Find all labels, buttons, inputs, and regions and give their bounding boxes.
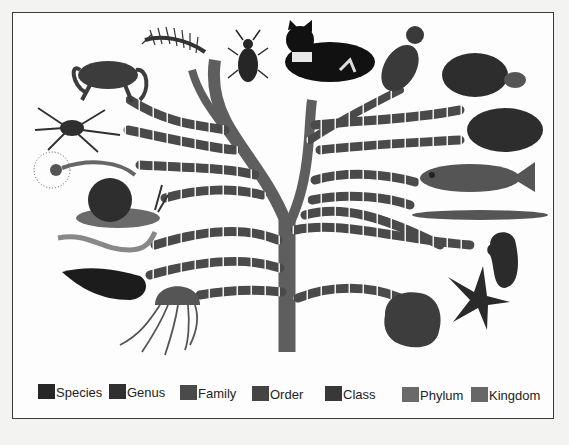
spider-illustration [35,108,120,152]
leech-illustration [62,268,146,300]
beetle-illustration [228,30,268,82]
legend-label: Phylum [420,389,463,402]
centipede-illustration [142,27,205,53]
legend-item-phylum: Phylum [402,387,463,402]
legend-item-kingdom: Kingdom [471,387,540,402]
legend-label: Class [343,388,376,401]
legend-item-genus: Genus [109,384,165,399]
sea-squirt-illustration [487,232,518,288]
legend-item-family: Family [180,385,236,400]
legend-item-class: Class [325,386,376,401]
legend-swatch [471,387,488,402]
bristle-worm-illustration [58,232,155,250]
left-branches [128,100,282,295]
legend-swatch [109,384,126,399]
legend-label: Order [270,388,303,401]
taxonomy-tree [0,0,569,445]
right-branches [295,90,470,298]
legend-swatch [325,386,342,401]
bird-illustration [374,26,427,98]
tree-trunk [192,60,312,352]
legend-label: Species [56,386,102,399]
legend-swatch [180,385,197,400]
crab-illustration [74,61,147,102]
fish-illustration [420,162,535,192]
legend-swatch [402,387,419,402]
legend-swatch [252,386,269,401]
tortoise-illustration [442,53,526,97]
cat-illustration [285,20,375,82]
legend-label: Family [198,387,236,400]
legend-swatch [38,384,55,399]
frog-illustration [467,108,543,152]
legend-label: Genus [127,386,165,399]
legend-label: Kingdom [489,389,540,402]
lancelet-illustration [412,210,548,220]
legend-item-species: Species [38,384,102,399]
sponge-illustration [384,292,440,347]
snail-illustration [76,178,168,228]
rank-legend: SpeciesGenusFamilyOrderClassPhylumKingdo… [38,384,548,406]
legend-item-order: Order [252,386,303,401]
